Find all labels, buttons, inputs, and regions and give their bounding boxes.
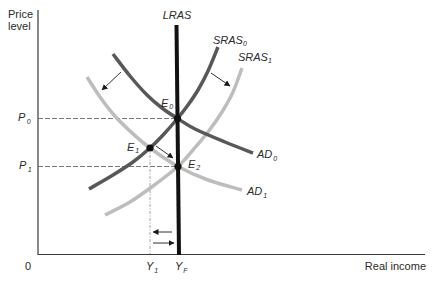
label-p0-subscript: 0 [27, 118, 31, 125]
label-e0: E0 [161, 97, 173, 110]
label-e2: E2 [188, 158, 200, 171]
label-p1: P1 [19, 159, 32, 173]
equilibrium-point-e0 [174, 115, 181, 122]
label-sras0: SRAS0 [213, 34, 247, 47]
label-ad1: AD1 [246, 185, 267, 199]
label-sras1-subscript: 1 [268, 57, 272, 64]
label-e0-text: E [161, 97, 169, 109]
label-yf: YF [175, 260, 188, 274]
label-e0-subscript: 0 [169, 103, 173, 110]
y-axis-label-line2: level [8, 20, 31, 32]
label-y1: Y1 [146, 260, 158, 274]
label-yf-text: Y [175, 260, 183, 272]
label-p1-subscript: 1 [28, 166, 32, 173]
label-p1-text: P [19, 159, 27, 171]
label-y1-text: Y [146, 260, 154, 272]
y-axis-label-line1: Price [8, 8, 33, 20]
label-e2-text: E [188, 158, 196, 170]
x-axis-label: Real income [365, 260, 426, 272]
label-lras-text: LRAS [163, 9, 192, 21]
label-ad1-subscript: 1 [263, 192, 267, 199]
label-ad1-text: AD [246, 185, 262, 197]
label-sras1: SRAS1 [238, 51, 272, 64]
label-ad0: AD0 [256, 148, 277, 162]
equilibrium-point-e2 [174, 163, 181, 170]
sras-shift-arrow-icon [211, 73, 230, 86]
label-ad0-text: AD [256, 148, 272, 160]
label-e1: E1 [127, 141, 139, 154]
curve-lras [177, 25, 180, 255]
label-e1-subscript: 1 [135, 147, 139, 154]
label-p0: P0 [18, 111, 31, 125]
curve-ad0 [113, 54, 253, 153]
label-sras0-text: SRAS [213, 34, 244, 46]
label-y1-subscript: 1 [154, 267, 158, 274]
label-yf-subscript: F [183, 267, 188, 274]
label-p0-text: P [18, 111, 26, 123]
ad-shift-arrow-icon [102, 72, 121, 90]
label-e1-text: E [127, 141, 135, 153]
origin-label: 0 [25, 260, 31, 272]
label-sras1-text: SRAS [238, 51, 269, 63]
label-lras: LRAS [163, 9, 192, 21]
equilibrium-point-e1 [146, 144, 153, 151]
label-e2-subscript: 2 [195, 164, 200, 171]
label-ad0-subscript: 0 [273, 155, 277, 162]
label-sras0-subscript: 0 [243, 40, 247, 47]
ad-as-diagram: Price level 0 Real income LRAS SRAS0 SRA… [0, 0, 434, 281]
